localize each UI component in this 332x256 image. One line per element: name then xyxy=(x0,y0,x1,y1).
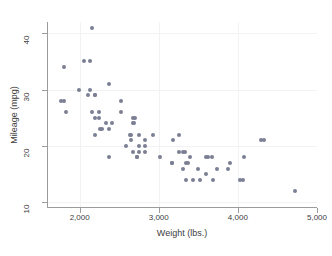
data-point xyxy=(242,155,246,159)
data-point xyxy=(215,167,219,171)
data-point xyxy=(211,178,215,182)
data-point xyxy=(77,88,81,92)
data-point xyxy=(88,59,92,63)
data-point xyxy=(158,155,162,159)
data-point xyxy=(181,167,185,171)
data-point xyxy=(86,93,90,97)
data-point xyxy=(93,133,97,137)
data-point xyxy=(107,127,111,131)
data-point xyxy=(171,138,175,142)
y-axis-tick-label-text: 40 xyxy=(22,36,32,45)
data-point xyxy=(241,178,245,182)
y-axis-title-label: Mileage (mpg) xyxy=(9,86,19,144)
data-point xyxy=(131,150,135,154)
y-axis-line xyxy=(47,22,48,208)
data-point xyxy=(143,144,147,148)
y-axis-tick-label-text: 20 xyxy=(22,149,32,158)
data-point xyxy=(129,133,133,137)
data-point xyxy=(132,121,136,125)
data-point xyxy=(93,93,97,97)
data-point xyxy=(137,144,141,148)
data-point xyxy=(110,121,114,125)
data-point xyxy=(226,167,230,171)
data-point xyxy=(59,99,63,103)
x-axis-title: Weight (lbs.) xyxy=(47,228,317,238)
data-point xyxy=(188,155,192,159)
gridline-horizontal xyxy=(48,202,317,203)
data-point xyxy=(97,110,101,114)
data-point xyxy=(90,110,94,114)
data-point xyxy=(129,138,133,142)
x-axis-line xyxy=(47,207,317,208)
data-point xyxy=(119,110,123,114)
data-point xyxy=(107,82,111,86)
plot-area xyxy=(48,22,317,208)
data-point xyxy=(204,172,208,176)
data-point xyxy=(151,133,155,137)
data-point xyxy=(119,99,123,103)
y-axis-tick-label-text: 30 xyxy=(22,92,32,101)
data-point xyxy=(104,121,108,125)
data-point xyxy=(186,161,190,165)
data-point xyxy=(210,155,214,159)
data-point xyxy=(88,88,92,92)
data-point xyxy=(170,161,174,165)
data-point xyxy=(184,178,188,182)
y-axis-title: Mileage (mpg) xyxy=(7,0,21,230)
data-point xyxy=(198,178,202,182)
data-point xyxy=(62,65,66,69)
data-point xyxy=(196,167,200,171)
data-point xyxy=(97,116,101,120)
data-point xyxy=(183,150,187,154)
data-point xyxy=(124,144,128,148)
data-point xyxy=(131,116,135,120)
y-axis-tick xyxy=(42,90,47,91)
data-point xyxy=(82,59,86,63)
data-point xyxy=(137,150,141,154)
data-point xyxy=(107,155,111,159)
gridline-horizontal xyxy=(48,33,317,34)
x-axis-tick-label: 2,000 xyxy=(55,213,105,222)
x-axis-tick-label: 4,000 xyxy=(213,213,263,222)
gridline-horizontal xyxy=(48,146,317,147)
data-point xyxy=(191,178,195,182)
data-point xyxy=(177,150,181,154)
gridline-vertical xyxy=(159,22,160,208)
data-point xyxy=(177,133,181,137)
data-point xyxy=(137,133,141,137)
y-axis-tick-label-text: 10 xyxy=(22,205,32,214)
data-point xyxy=(228,161,232,165)
data-point xyxy=(143,150,147,154)
data-point xyxy=(90,26,94,30)
y-axis-tick xyxy=(42,146,47,147)
gridline-vertical xyxy=(80,22,81,208)
y-axis-tick xyxy=(42,33,47,34)
data-point xyxy=(143,138,147,142)
x-axis-tick-label: 5,000 xyxy=(292,213,332,222)
data-point xyxy=(293,189,297,193)
x-axis-tick-label: 3,000 xyxy=(134,213,184,222)
data-point xyxy=(135,155,139,159)
data-point xyxy=(64,110,68,114)
y-axis-tick xyxy=(42,202,47,203)
